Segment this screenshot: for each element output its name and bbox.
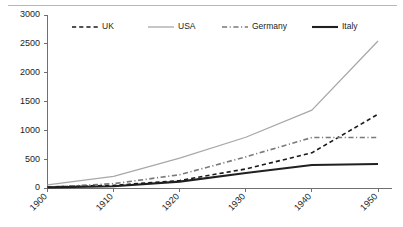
- line-chart-plot: 050010001500200025003000 190019101920193…: [0, 0, 403, 227]
- x-axis-tick-label: 1920: [160, 191, 181, 212]
- x-axis-tick-label: 1930: [226, 191, 247, 212]
- y-axis-tick-label: 500: [25, 154, 40, 164]
- x-axis-tick-label: 1940: [292, 191, 313, 212]
- x-axis-tick-label: 1950: [358, 191, 379, 212]
- series-group: [48, 41, 379, 187]
- x-axis-tick-group: 190019101920193019401950: [28, 188, 380, 213]
- legend-label-usa[interactable]: USA: [178, 21, 196, 31]
- x-axis-tick-label: 1900: [28, 191, 49, 212]
- y-axis-tick-group: 050010001500200025003000: [20, 9, 48, 192]
- y-axis-tick-label: 1500: [20, 96, 40, 106]
- chart-legend: UKUSAGermanyItaly: [72, 21, 358, 31]
- legend-label-germany[interactable]: Germany: [252, 21, 288, 31]
- y-axis-tick-label: 2000: [20, 67, 40, 77]
- y-axis-tick-label: 0: [35, 182, 40, 192]
- chart-container: 050010001500200025003000 190019101920193…: [0, 0, 403, 227]
- series-line-germany: [48, 138, 379, 188]
- legend-label-uk[interactable]: UK: [102, 21, 114, 31]
- y-axis-tick-label: 3000: [20, 9, 40, 19]
- series-line-uk: [48, 114, 379, 187]
- y-axis-tick-label: 2500: [20, 38, 40, 48]
- series-line-usa: [48, 41, 379, 185]
- x-axis-tick-label: 1910: [94, 191, 115, 212]
- legend-label-italy[interactable]: Italy: [342, 21, 358, 31]
- y-axis-tick-label: 1000: [20, 125, 40, 135]
